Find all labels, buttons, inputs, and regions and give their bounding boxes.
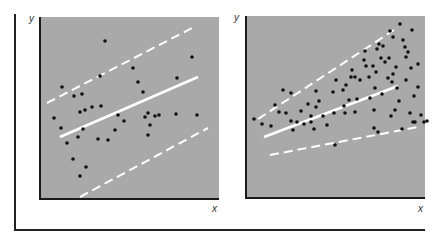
- data-point: [321, 114, 325, 118]
- data-point: [391, 72, 395, 76]
- data-point: [84, 165, 88, 169]
- data-point: [371, 64, 375, 68]
- data-point: [291, 128, 295, 132]
- data-point: [383, 60, 387, 64]
- data-point: [413, 120, 417, 124]
- data-point: [412, 94, 416, 98]
- data-point: [400, 127, 404, 131]
- data-point: [148, 123, 152, 127]
- data-point: [341, 88, 345, 92]
- data-point: [78, 110, 82, 114]
- data-point: [309, 114, 313, 118]
- data-point: [136, 80, 140, 84]
- data-point: [260, 122, 264, 126]
- regression-line: [60, 77, 198, 137]
- data-point: [317, 99, 321, 103]
- data-point: [381, 44, 385, 48]
- upper-band-line: [258, 30, 394, 119]
- data-point: [299, 109, 303, 113]
- data-point: [190, 55, 194, 59]
- data-point: [388, 29, 392, 33]
- data-point: [106, 138, 110, 142]
- data-point: [59, 126, 63, 130]
- data-point: [363, 49, 367, 53]
- data-point: [332, 111, 336, 115]
- data-point: [358, 78, 362, 82]
- data-point: [416, 85, 420, 89]
- data-point: [174, 112, 178, 116]
- data-point: [309, 120, 313, 124]
- data-point: [404, 55, 408, 59]
- data-point: [398, 22, 402, 26]
- data-point: [277, 110, 281, 114]
- data-point: [153, 114, 157, 118]
- upper-band-line: [47, 26, 196, 103]
- data-point: [379, 56, 383, 60]
- data-point: [157, 113, 161, 117]
- data-point: [394, 65, 398, 69]
- data-point: [350, 68, 354, 72]
- data-point: [353, 75, 357, 79]
- data-point: [90, 105, 94, 109]
- data-point: [347, 98, 351, 102]
- data-point: [391, 35, 395, 39]
- data-point: [103, 39, 107, 43]
- data-point: [113, 128, 117, 132]
- data-point: [364, 64, 368, 68]
- data-point: [343, 111, 347, 115]
- data-point: [401, 38, 405, 42]
- data-point: [284, 111, 288, 115]
- data-point: [302, 122, 306, 126]
- data-point: [372, 108, 376, 112]
- data-point: [419, 113, 423, 117]
- data-point: [314, 89, 318, 93]
- data-point: [99, 104, 103, 108]
- data-point: [404, 78, 408, 82]
- data-point: [312, 127, 316, 131]
- data-point: [273, 103, 277, 107]
- data-point: [374, 70, 378, 74]
- data-point: [314, 105, 318, 109]
- data-point: [380, 92, 384, 96]
- scatter-overlay: [0, 0, 443, 235]
- data-point: [406, 50, 410, 54]
- data-point: [416, 62, 420, 66]
- data-point: [175, 76, 179, 80]
- data-point: [353, 110, 357, 114]
- regression-line: [264, 86, 398, 137]
- data-point: [367, 75, 371, 79]
- data-point: [78, 174, 82, 178]
- data-point: [269, 124, 273, 128]
- data-point: [289, 119, 293, 123]
- data-point: [397, 99, 401, 103]
- data-point: [425, 119, 429, 123]
- data-point: [376, 130, 380, 134]
- data-point: [377, 42, 381, 46]
- data-point: [195, 113, 199, 117]
- data-point: [386, 76, 390, 80]
- data-point: [395, 86, 399, 90]
- data-point: [98, 74, 102, 78]
- data-point: [331, 90, 335, 94]
- data-point: [344, 83, 348, 87]
- data-point: [325, 123, 329, 127]
- data-point: [141, 90, 145, 94]
- data-point: [403, 45, 407, 49]
- data-point: [393, 108, 397, 112]
- data-point: [334, 78, 338, 82]
- data-point: [306, 102, 310, 106]
- data-point: [76, 135, 80, 139]
- data-point: [146, 111, 150, 115]
- data-point: [373, 86, 377, 90]
- data-point: [368, 96, 372, 100]
- data-point: [71, 157, 75, 161]
- data-point: [131, 66, 135, 70]
- data-point: [362, 58, 366, 62]
- data-point: [116, 113, 120, 117]
- data-point: [52, 116, 56, 120]
- data-point: [408, 111, 412, 115]
- data-point: [333, 143, 337, 147]
- data-point: [122, 119, 126, 123]
- data-point: [375, 47, 379, 51]
- data-point: [289, 91, 293, 95]
